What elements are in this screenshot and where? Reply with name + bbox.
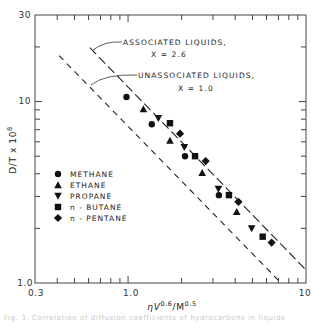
legend-marker-ethane	[54, 181, 62, 188]
data-point-ethane	[233, 208, 241, 215]
data-point-n-pentane	[234, 198, 242, 206]
legend-label-n-butane: n - BUTANE	[70, 203, 122, 212]
x-axis-label-sup2: 0.5	[185, 300, 197, 308]
y-tick-label-30: 30	[19, 10, 31, 20]
data-point-n-butane	[259, 233, 265, 239]
data-point-methane	[123, 94, 129, 100]
y-axis-label: D/T x 108	[6, 126, 18, 174]
y-tick-label-10: 10	[19, 96, 31, 106]
unassociated-label-leader	[91, 75, 137, 85]
legend-label-ethane: ETHANE	[70, 181, 106, 190]
legend-markers	[54, 171, 62, 222]
y-axis-label-main: D/T x 10	[8, 131, 18, 174]
x-axis-label-sup1: 0.6	[160, 300, 172, 308]
x-tick-label-0.3: 0.3	[28, 288, 44, 298]
unassociated-label-line2: X = 1.0	[178, 84, 214, 93]
correlation-lines	[59, 48, 306, 281]
unassociated-label-line1: UNASSOCIATED LIQUIDS,	[138, 71, 255, 80]
legend-label-methane: METHANE	[70, 170, 114, 179]
data-point-propane	[155, 115, 163, 122]
data-point-ethane	[198, 169, 206, 176]
associated-label-line2: X = 2.6	[151, 50, 187, 59]
legend-marker-n-pentane	[54, 214, 62, 222]
legend-marker-methane	[55, 171, 61, 177]
legend-marker-propane	[54, 193, 62, 200]
data-point-n-butane	[167, 120, 173, 126]
y-tick-label-1: 1.0	[17, 278, 33, 288]
x-tick-label-1: 1.0	[123, 288, 139, 298]
y-axis-label-sup: 8	[6, 126, 14, 131]
data-point-n-pentane	[268, 238, 276, 246]
data-point-n-butane	[226, 192, 232, 198]
x-axis-label: ηV0.6/M0.5	[147, 300, 196, 312]
data-point-methane	[216, 192, 222, 198]
unassociated-liquids-line	[59, 56, 279, 281]
data-point-propane	[215, 186, 223, 193]
data-point-methane	[182, 153, 188, 159]
associated-label-leader	[93, 42, 122, 50]
associated-label-line1: ASSOCIATED LIQUIDS,	[123, 38, 227, 47]
chart: 30 10 1.0 0.3 1.0 10 ηV0.6/M0.5 D/T x 10…	[0, 0, 322, 328]
x-axis-label-mid: /M	[173, 302, 185, 312]
legend-marker-n-butane	[55, 204, 61, 210]
legend: METHANE ETHANE PROPANE n - BUTANE n - PE…	[54, 170, 128, 223]
data-point-propane	[180, 144, 188, 151]
data-point-propane	[248, 225, 256, 232]
legend-label-n-pentane: n - PENTANE	[70, 214, 128, 223]
data-point-methane	[149, 121, 155, 127]
figure-caption: Fig. 3. Correlation of diffusion coeffic…	[4, 314, 318, 322]
x-axis-label-main: ηV	[147, 302, 160, 312]
legend-label-propane: PROPANE	[70, 192, 112, 201]
data-point-n-butane	[192, 153, 198, 159]
data-point-n-pentane	[176, 130, 184, 138]
x-tick-label-10: 10	[299, 288, 311, 298]
data-point-ethane	[166, 137, 174, 144]
data-points	[123, 94, 275, 247]
